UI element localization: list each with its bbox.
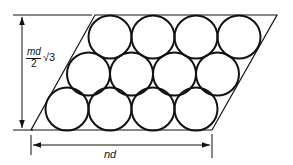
packing-diagram bbox=[0, 0, 293, 165]
circle bbox=[89, 16, 132, 59]
height-label-numerator: md bbox=[27, 46, 41, 57]
circle bbox=[132, 88, 175, 131]
height-label-radical: √3 bbox=[43, 51, 55, 63]
circle bbox=[89, 88, 132, 131]
circle bbox=[175, 16, 218, 59]
height-dimension bbox=[13, 15, 92, 130]
circle-grid bbox=[46, 16, 261, 131]
width-dimension bbox=[31, 134, 212, 158]
circle bbox=[46, 88, 89, 131]
width-label: nd bbox=[104, 148, 116, 160]
circle bbox=[175, 88, 218, 131]
height-label-denominator: 2 bbox=[31, 58, 37, 69]
height-label: md 2 √3 bbox=[25, 46, 65, 70]
circle bbox=[132, 16, 175, 59]
circle bbox=[218, 16, 261, 59]
